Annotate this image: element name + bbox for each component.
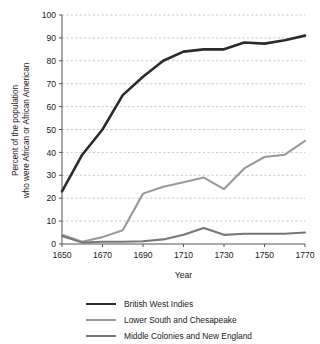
- y-axis-tick-label: 80: [46, 56, 56, 66]
- y-axis-tick-label: 10: [46, 216, 56, 226]
- y-axis-tick-label: 60: [46, 102, 56, 112]
- series-line-0: [62, 36, 305, 192]
- line-chart-plot: 0102030405060708090100165016701690171017…: [0, 0, 320, 296]
- x-axis-title: Year: [175, 270, 193, 280]
- legend-swatch-series-1: [86, 319, 116, 321]
- series-line-1: [62, 141, 305, 242]
- x-axis-tick-label: 1670: [93, 250, 112, 260]
- x-axis-tick-label: 1750: [255, 250, 274, 260]
- legend-label-series-0: British West Indies: [124, 299, 193, 309]
- legend-swatch-series-2: [86, 335, 116, 337]
- y-axis-tick-label: 70: [46, 79, 56, 89]
- y-axis-tick-label: 0: [51, 239, 56, 249]
- y-axis-tick-label: 50: [46, 125, 56, 135]
- legend-label-series-2: Middle Colonies and New England: [124, 331, 252, 341]
- y-axis-tick-label: 40: [46, 148, 56, 158]
- legend-label-series-1: Lower South and Chesapeake: [124, 315, 237, 325]
- y-axis-tick-label: 100: [42, 10, 57, 20]
- y-axis-tick-label: 90: [46, 33, 56, 43]
- legend-item: British West Indies: [0, 296, 320, 312]
- x-axis-tick-label: 1770: [295, 250, 314, 260]
- x-axis-tick-label: 1730: [214, 250, 233, 260]
- legend-item: Lower South and Chesapeake: [0, 312, 320, 328]
- x-axis-tick-label: 1710: [174, 250, 193, 260]
- x-axis-tick-label: 1650: [52, 250, 71, 260]
- chart-legend: British West Indies Lower South and Ches…: [0, 296, 320, 344]
- chart-figure: Percent of the population who were Afric…: [0, 0, 320, 344]
- x-axis-tick-label: 1690: [133, 250, 152, 260]
- y-axis-tick-label: 30: [46, 170, 56, 180]
- legend-item: Middle Colonies and New England: [0, 328, 320, 344]
- series-line-2: [62, 228, 305, 243]
- y-axis-tick-label: 20: [46, 193, 56, 203]
- legend-swatch-series-0: [86, 303, 116, 305]
